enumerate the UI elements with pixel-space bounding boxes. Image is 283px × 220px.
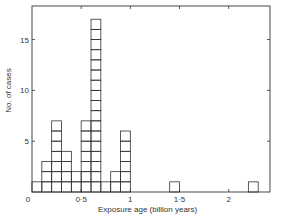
case-square (91, 131, 101, 141)
case-square (52, 131, 62, 141)
case-square (52, 172, 62, 182)
case-square (42, 182, 52, 192)
x-tick-label: 2 (226, 195, 231, 204)
histogram-chart: 00·511·52 51015 (0, 0, 283, 220)
x-tick-label: 0 (26, 195, 31, 204)
y-tick-label: 10 (20, 86, 29, 95)
case-square (91, 172, 101, 182)
case-square (121, 131, 131, 141)
case-square (111, 172, 121, 182)
case-square (91, 70, 101, 80)
case-square (91, 40, 101, 50)
case-square (52, 121, 62, 131)
case-square (81, 172, 91, 182)
case-square (121, 172, 131, 182)
case-square (52, 182, 62, 192)
case-square (91, 182, 101, 192)
case-square (52, 151, 62, 161)
case-square (71, 182, 81, 192)
plot-frame (32, 6, 270, 192)
case-square (121, 151, 131, 161)
x-tick-label: 1 (128, 195, 133, 204)
x-tick-label: 1·5 (174, 195, 186, 204)
case-square (91, 60, 101, 70)
case-square (248, 182, 258, 192)
case-square (91, 162, 101, 172)
case-square (91, 101, 101, 111)
histogram-bars (32, 19, 258, 192)
case-square (91, 90, 101, 100)
case-square (52, 141, 62, 151)
y-tick-label: 5 (25, 137, 30, 146)
case-square (32, 182, 42, 192)
case-square (52, 162, 62, 172)
x-tick-label: 0·5 (75, 195, 87, 204)
plot-border (32, 6, 270, 192)
case-square (91, 141, 101, 151)
case-square (121, 162, 131, 172)
case-square (42, 162, 52, 172)
case-square (121, 141, 131, 151)
case-square (42, 172, 52, 182)
case-square (91, 111, 101, 121)
case-square (81, 182, 91, 192)
case-square (81, 121, 91, 131)
case-square (62, 172, 72, 182)
y-axis-ticks: 51015 (20, 36, 270, 147)
case-square (91, 19, 101, 29)
case-square (62, 182, 72, 192)
x-axis-label: Exposure age (billion years) (98, 205, 197, 214)
case-square (81, 141, 91, 151)
case-square (81, 162, 91, 172)
case-square (111, 182, 121, 192)
y-axis-label: No. of cases (4, 68, 13, 112)
case-square (121, 182, 131, 192)
x-axis-ticks: 00·511·52 (26, 6, 232, 204)
case-square (81, 131, 91, 141)
y-tick-label: 15 (20, 36, 29, 45)
case-square (81, 151, 91, 161)
case-square (170, 182, 180, 192)
case-square (91, 121, 101, 131)
case-square (71, 172, 81, 182)
case-square (91, 50, 101, 60)
case-square (101, 182, 111, 192)
case-square (62, 151, 72, 161)
case-square (91, 80, 101, 90)
case-square (91, 29, 101, 39)
case-square (91, 151, 101, 161)
case-square (62, 162, 72, 172)
